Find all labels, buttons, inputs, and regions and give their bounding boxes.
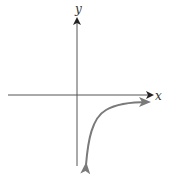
function-curve (86, 102, 148, 165)
graph: x y (0, 0, 169, 178)
y-axis-label: y (74, 2, 82, 16)
x-axis-label: x (155, 89, 162, 103)
